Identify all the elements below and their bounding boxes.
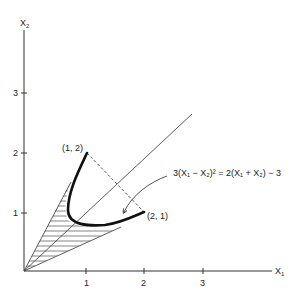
- y-tick-label-1: 1: [13, 208, 18, 218]
- bold-curve: [68, 153, 144, 225]
- diagram-canvas: 1 2 3 1 2 3 X2 X1 (1, 2) (2, 1) 3(X₁ − X: [0, 0, 306, 301]
- upper-tangent-ray: [24, 182, 71, 271]
- x-axis-label: X1: [275, 266, 285, 277]
- lower-tangent-ray: [24, 227, 121, 271]
- equation-label: 3(X₁ − X₂)² = 2(X₁ + X₂) − 3: [173, 168, 281, 178]
- y-tick-label-3: 3: [13, 88, 18, 98]
- y-tick-label-2: 2: [13, 148, 18, 158]
- point-label-1-2: (1, 2): [62, 143, 83, 153]
- dashed-segment: [87, 153, 144, 212]
- y-axis-label: X2: [20, 18, 30, 29]
- x-tick-label-2: 2: [141, 278, 146, 288]
- x-tick-label-3: 3: [200, 278, 205, 288]
- x-tick-label-1: 1: [84, 278, 89, 288]
- point-label-2-1: (2, 1): [147, 211, 168, 221]
- equation-arrow: [124, 176, 167, 212]
- diagonal-line: [24, 114, 192, 271]
